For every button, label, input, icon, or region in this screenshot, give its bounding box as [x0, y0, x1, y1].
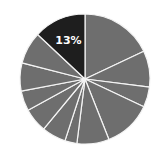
slice-percent-label: 13% — [55, 34, 81, 47]
pie-slices — [20, 14, 150, 144]
pie-labels: 13% — [55, 34, 81, 47]
pie-chart: 13% — [0, 0, 158, 154]
